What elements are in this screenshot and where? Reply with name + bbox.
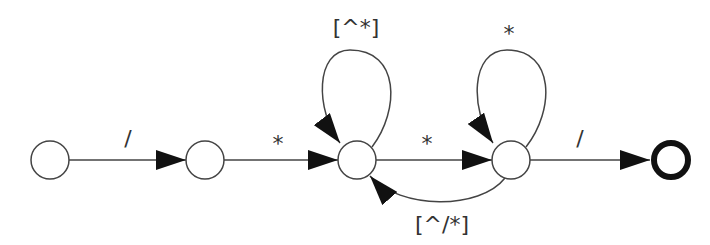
- state-s1: [186, 141, 224, 179]
- state-s3: [492, 141, 530, 179]
- edge-s3-s2: [370, 176, 505, 202]
- loop-s2: [322, 50, 390, 147]
- label-s2-loop: [^*]: [333, 15, 380, 40]
- label-s3-loop: *: [504, 21, 515, 46]
- state-diagram: / * [^*] * * [^/*] /: [0, 0, 710, 245]
- loop-s3: [477, 50, 546, 147]
- label-s1-s2: *: [273, 131, 284, 156]
- label-s0-s1: /: [124, 126, 131, 151]
- label-s3-s2: [^/*]: [415, 212, 469, 237]
- state-s2: [338, 141, 376, 179]
- state-s4-final: [654, 143, 688, 177]
- label-s2-s3: *: [422, 131, 433, 156]
- label-s3-s4: /: [576, 126, 583, 151]
- state-s0: [31, 141, 69, 179]
